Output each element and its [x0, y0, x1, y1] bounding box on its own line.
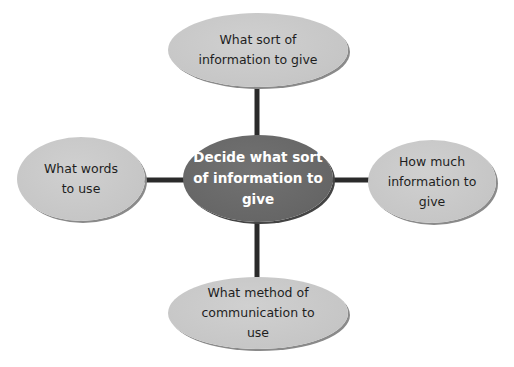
branch-label-left: What words to use	[44, 159, 118, 199]
central-label: Decide what sort of information to give	[193, 147, 322, 210]
spider-diagram: What sort of information to give What wo…	[0, 0, 514, 367]
branch-label-right: How much information to give	[388, 152, 477, 212]
branch-node-right: How much information to give	[368, 140, 496, 223]
branch-label-top: What sort of information to give	[198, 30, 317, 70]
central-node: Decide what sort of information to give	[183, 135, 333, 222]
branch-node-top: What sort of information to give	[168, 13, 348, 87]
branch-label-bottom: What method of communication to use	[201, 283, 314, 343]
branch-node-left: What words to use	[17, 137, 145, 221]
branch-node-bottom: What method of communication to use	[168, 277, 348, 349]
